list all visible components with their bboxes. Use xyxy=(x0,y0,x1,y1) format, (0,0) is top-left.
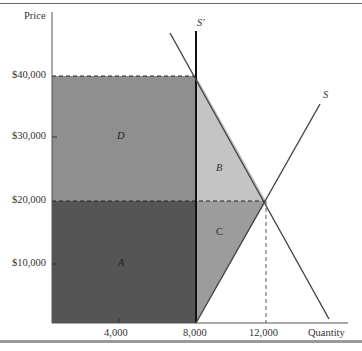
s-prime-label: S′ xyxy=(197,17,205,28)
region-b-label: B xyxy=(216,162,222,173)
y-tick-20000: $20,000 xyxy=(0,194,46,205)
s-label: S xyxy=(323,89,328,100)
region-a-label: A xyxy=(118,257,124,268)
y-tick-40000: $40,000 xyxy=(0,69,46,80)
x-tick-8000: 8,000 xyxy=(183,327,207,338)
region-b xyxy=(196,76,266,201)
y-tick-30000: $30,000 xyxy=(0,130,46,141)
region-d-label: D xyxy=(117,130,125,141)
x-axis-label: Quantity xyxy=(308,327,345,338)
x-tick-12000: 12,000 xyxy=(249,327,278,338)
region-c-label: C xyxy=(216,226,223,237)
frame-bottom-border xyxy=(0,340,362,343)
chart-canvas xyxy=(0,0,362,351)
x-tick-4000: 4,000 xyxy=(104,327,128,338)
y-tick-10000: $10,000 xyxy=(0,257,46,268)
y-axis-label: Price xyxy=(24,10,46,21)
